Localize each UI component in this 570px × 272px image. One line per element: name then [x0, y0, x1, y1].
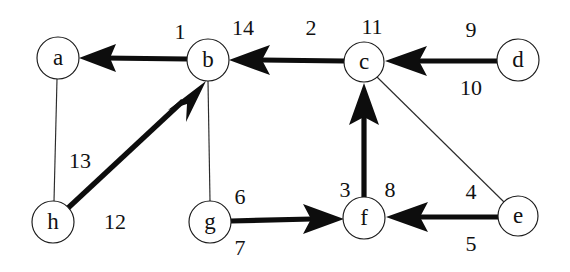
node-f-label: f: [360, 205, 368, 230]
edge-weight-label: 14: [232, 15, 254, 40]
edge-a-h: [54, 79, 57, 201]
node-h[interactable]: h: [32, 201, 74, 243]
edge-weight-label: 12: [104, 209, 126, 234]
thin-edges-group: [54, 77, 505, 203]
edge-weight-label: 4: [466, 179, 477, 204]
edge-weight-label: 2: [306, 15, 317, 40]
node-d-label: d: [512, 47, 524, 72]
edge-c-e: [377, 77, 505, 203]
thick-edges-group: [68, 44, 498, 234]
node-h-label: h: [47, 209, 59, 234]
edge-c-b: [229, 45, 344, 75]
node-g-label: g: [204, 209, 216, 234]
node-a[interactable]: a: [37, 37, 79, 79]
edge-weight-label: 6: [235, 184, 246, 209]
arrowhead-h-b: [168, 81, 206, 122]
edge-f-c: [349, 83, 379, 197]
node-g[interactable]: g: [189, 201, 231, 243]
edge-b-g: [208, 81, 210, 201]
node-c[interactable]: c: [344, 42, 384, 82]
node-b-label: b: [202, 47, 214, 72]
edge-weight-label: 1: [175, 19, 186, 44]
edge-e-f: [386, 202, 498, 232]
node-c-label: c: [359, 49, 369, 74]
edge-weight-label: 8: [385, 177, 396, 202]
edge-g-f: [231, 204, 344, 234]
node-b[interactable]: b: [187, 39, 229, 81]
edge-d-c: [385, 46, 497, 76]
edge-weight-label: 11: [361, 14, 382, 39]
edge-weight-label: 3: [340, 177, 351, 202]
edge-h-b: [68, 81, 206, 208]
edge-b-a: [79, 44, 187, 72]
graph-svg: a b c d e f g: [0, 0, 570, 272]
diagram-canvas: a b c d e f g: [0, 0, 570, 272]
node-a-label: a: [53, 45, 63, 70]
edge-weight-label: 5: [466, 231, 477, 256]
edge-weight-label: 10: [460, 75, 482, 100]
node-f[interactable]: f: [343, 197, 385, 239]
node-e-label: e: [513, 203, 523, 228]
node-d[interactable]: d: [497, 39, 539, 81]
node-e[interactable]: e: [498, 196, 538, 236]
edge-weight-label: 9: [466, 17, 477, 42]
edge-weight-label: 7: [235, 235, 246, 260]
edge-weight-label: 13: [69, 148, 91, 173]
